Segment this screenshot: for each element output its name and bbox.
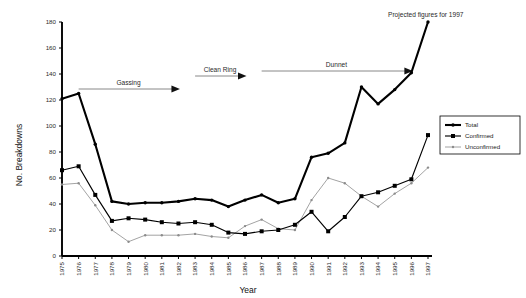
data-point-confirmed [293, 223, 297, 227]
data-point-unconfirmed [377, 205, 379, 207]
x-axis-tick-label: 1978 [108, 261, 115, 275]
annotation-label: Dunnet [326, 61, 347, 68]
data-point-confirmed [260, 229, 264, 233]
x-axis-tick-label: 1976 [75, 261, 82, 275]
x-axis-tick-label: 1985 [225, 261, 232, 275]
y-axis-tick-label: 180 [46, 18, 57, 25]
data-point-total [210, 198, 213, 201]
y-axis-tick-label: 100 [46, 122, 57, 129]
data-point-total [326, 152, 329, 155]
data-point-unconfirmed [194, 233, 196, 235]
x-axis-tick-label: 1994 [374, 261, 381, 275]
data-point-unconfirmed [111, 229, 113, 231]
data-point-unconfirmed [61, 183, 63, 185]
legend-label-confirmed: Confirmed [465, 132, 494, 139]
breakdowns-line-chart: 020406080100120140160180 197519761977197… [0, 0, 526, 298]
data-point-unconfirmed [127, 241, 129, 243]
x-axis-tick-label: 1975 [58, 261, 65, 275]
x-axis-tick-label: 1988 [275, 261, 282, 275]
data-point-confirmed [326, 229, 330, 233]
annotation-label: Clean Ring [204, 66, 237, 74]
data-point-unconfirmed [177, 234, 179, 236]
data-point-confirmed [176, 222, 180, 226]
data-point-total [376, 102, 379, 105]
data-point-confirmed [60, 168, 64, 172]
data-point-total [310, 156, 313, 159]
x-axis-tick-label: 1996 [408, 261, 415, 275]
y-axis-tick-label: 0 [53, 252, 57, 259]
data-point-unconfirmed [294, 229, 296, 231]
data-point-unconfirmed [244, 225, 246, 227]
data-point-confirmed [193, 220, 197, 224]
data-point-total [426, 20, 429, 23]
chart-legend: TotalConfirmedUnconfirmed [440, 116, 520, 154]
legend-marker-unconfirmed [452, 146, 454, 148]
data-point-unconfirmed [427, 166, 429, 168]
legend-label-unconfirmed: Unconfirmed [465, 143, 501, 150]
data-point-total [110, 200, 113, 203]
data-point-confirmed [77, 164, 81, 168]
data-point-total [393, 88, 396, 91]
data-point-confirmed [243, 232, 247, 236]
legend-label-total: Total [465, 121, 478, 128]
chart-figure: 020406080100120140160180 197519761977197… [0, 0, 526, 298]
x-axis-tick-label: 1983 [191, 261, 198, 275]
data-point-confirmed [160, 220, 164, 224]
x-axis-tick-label: 1982 [175, 261, 182, 275]
data-point-confirmed [376, 190, 380, 194]
data-point-confirmed [226, 231, 230, 235]
data-point-confirmed [409, 177, 413, 181]
data-point-total [227, 205, 230, 208]
data-point-unconfirmed [260, 218, 262, 220]
data-point-unconfirmed [211, 235, 213, 237]
data-point-total [343, 141, 346, 144]
data-point-confirmed [426, 133, 430, 137]
x-axis-tick-label: 1993 [358, 261, 365, 275]
data-point-total [77, 92, 80, 95]
data-point-unconfirmed [344, 182, 346, 184]
x-axis-tick-label: 1981 [158, 261, 165, 275]
x-axis-tick-label: 1987 [258, 261, 265, 275]
y-axis-tick-label: 60 [49, 174, 56, 181]
data-point-confirmed [393, 184, 397, 188]
data-point-total [410, 71, 413, 74]
data-point-confirmed [210, 223, 214, 227]
data-point-total [94, 143, 97, 146]
data-point-unconfirmed [77, 182, 79, 184]
y-axis-tick-label: 40 [49, 200, 56, 207]
y-axis-title: No. Breakdowns [14, 124, 24, 186]
x-axis-tick-label: 1990 [308, 261, 315, 275]
data-point-confirmed [359, 194, 363, 198]
data-point-confirmed [127, 216, 131, 220]
data-point-unconfirmed [310, 199, 312, 201]
data-point-total [277, 201, 280, 204]
y-axis-tick-label: 140 [46, 70, 57, 77]
data-point-confirmed [93, 193, 97, 197]
y-axis-tick-label: 20 [49, 226, 56, 233]
x-axis-tick-label: 1984 [208, 261, 215, 275]
data-point-total [127, 202, 130, 205]
data-point-total [293, 197, 296, 200]
x-axis-tick-label: 1977 [92, 261, 99, 275]
data-point-total [243, 198, 246, 201]
data-point-unconfirmed [394, 192, 396, 194]
data-point-total [177, 200, 180, 203]
data-point-total [360, 85, 363, 88]
data-point-confirmed [343, 215, 347, 219]
data-point-unconfirmed [94, 204, 96, 206]
x-axis-tick-label: 1997 [424, 261, 431, 275]
legend-marker-total [451, 123, 454, 126]
legend-marker-confirmed [451, 134, 455, 138]
x-axis-title: Year [239, 285, 256, 295]
x-axis-tick-label: 1979 [125, 261, 132, 275]
projected-figures-note: Projected figures for 1997 [388, 11, 464, 19]
data-point-unconfirmed [161, 234, 163, 236]
y-axis-tick-label: 160 [46, 44, 57, 51]
data-point-total [60, 97, 63, 100]
y-axis-tick-label: 120 [46, 96, 57, 103]
data-point-unconfirmed [410, 182, 412, 184]
data-point-confirmed [276, 228, 280, 232]
x-axis-tick-label: 1989 [291, 261, 298, 275]
data-point-total [143, 201, 146, 204]
data-point-unconfirmed [227, 237, 229, 239]
